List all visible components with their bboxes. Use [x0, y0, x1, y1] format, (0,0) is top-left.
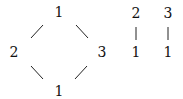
chain-a-node-lower: 1 [132, 44, 141, 60]
diamond-node-top: 1 [55, 4, 64, 20]
diamond-edge-bottom-right [75, 66, 87, 79]
diamond-node-right: 3 [98, 44, 107, 60]
diamond-diagram: 1 2 3 1 [10, 4, 107, 99]
chain-b-node-upper: 3 [164, 5, 173, 21]
chain-b-node-lower: 1 [164, 44, 173, 60]
diamond-edge-left-top [31, 25, 43, 38]
chain-3-1-diagram: 3 1 [164, 5, 173, 60]
chain-2-1-diagram: 2 1 [132, 5, 141, 60]
hasse-diagrams: 1 2 3 1 2 1 3 1 [0, 0, 183, 99]
chain-a-node-upper: 2 [132, 5, 141, 21]
diamond-node-left: 2 [10, 44, 19, 60]
diamond-edge-top-right [76, 25, 88, 38]
diamond-edge-left-bottom [31, 66, 43, 79]
diamond-node-bottom: 1 [55, 83, 64, 99]
